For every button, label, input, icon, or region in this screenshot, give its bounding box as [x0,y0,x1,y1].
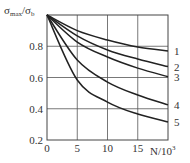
x-tick-label: 15 [132,142,144,154]
curve-label-4: 4 [174,99,180,111]
x-axis-label: N/103 [150,144,176,157]
y-tick-label: 0.8 [29,40,43,52]
curve-label-1: 1 [174,45,180,57]
x-tick-label: 10 [102,142,114,154]
grid [47,15,168,140]
x-tick-label: 0 [44,142,50,154]
curve-label-3: 3 [174,71,180,83]
x-tick-label: 5 [75,142,81,154]
y-tick-label: 0.2 [29,134,43,146]
y-tick-label: 0.6 [29,72,43,84]
curve-label-5: 5 [174,116,180,128]
tick-labels: 0510150.20.40.60.8 [29,40,144,154]
y-axis-label: σmax/σb [4,4,35,18]
curve-labels: 12345 [174,45,180,128]
y-tick-label: 0.4 [29,103,43,115]
chart: 0510150.20.40.60.8 12345 σmax/σb N/103 [0,0,190,163]
